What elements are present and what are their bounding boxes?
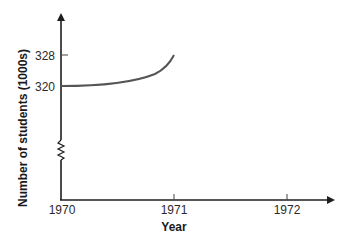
- x-axis-title: Year: [161, 220, 187, 234]
- x-tick-label-1971: 1971: [161, 203, 188, 217]
- x-tick-label-1970: 1970: [49, 203, 76, 217]
- series-curve: [61, 55, 174, 86]
- x-tick-label-1972: 1972: [274, 203, 301, 217]
- y-axis-break-zigzag: [58, 140, 64, 160]
- chart: 328 320 1970 1971 1972 Year Number of st…: [0, 0, 352, 250]
- y-tick-label-320: 320: [35, 80, 55, 94]
- y-axis-title: Number of students (1000s): [16, 49, 30, 207]
- x-axis-arrow-icon: [327, 196, 335, 204]
- y-tick-label-328: 328: [35, 49, 55, 63]
- y-axis-arrow-icon: [57, 13, 65, 21]
